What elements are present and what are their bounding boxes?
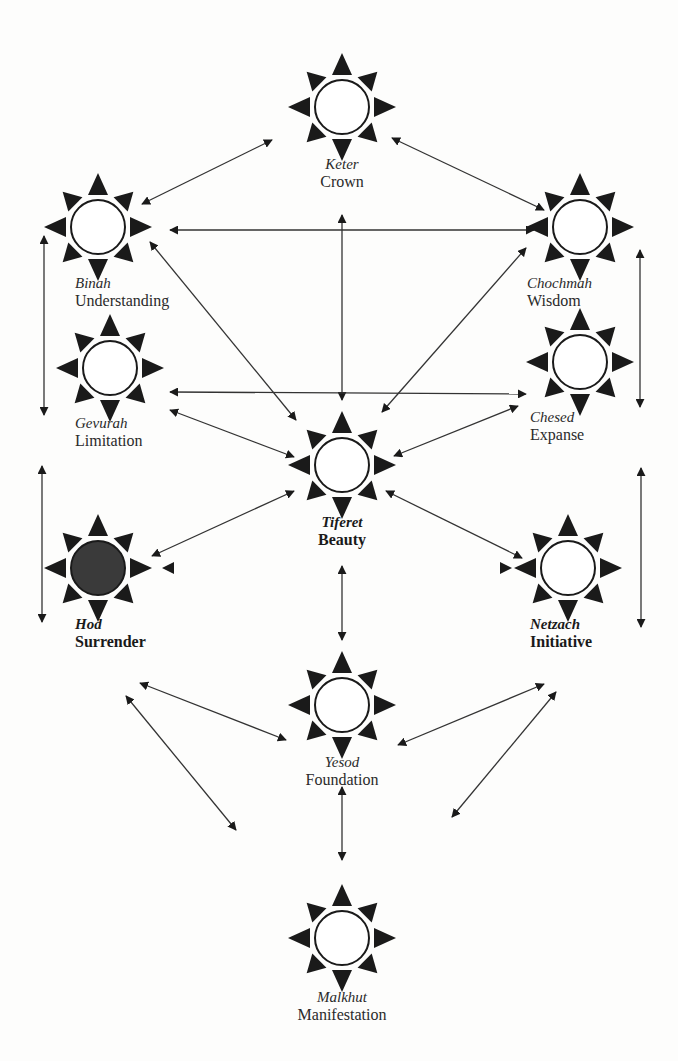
netzach-inner-pointer-icon [500,562,512,574]
sun-ray-icon [526,217,548,237]
hod-inner-pointer-icon [162,562,174,574]
label-netzach: NetzachInitiative [530,615,678,651]
english-name: Expanse [530,426,678,444]
sun-ray-icon [526,352,548,372]
arrow-binah-tiferet [150,242,296,420]
english-name: Surrender [75,633,275,651]
hebrew-name: Yesod [242,753,442,771]
open-circle-icon [553,200,607,254]
sun-ray-icon [288,97,310,117]
arrow-chesed-tiferet [394,406,518,456]
sun-node-chesed [526,308,634,416]
sun-ray-icon [142,358,164,378]
hebrew-name: Gevurah [75,414,275,432]
open-circle-icon [541,541,595,595]
sun-ray-icon [130,217,152,237]
sun-ray-icon [88,173,108,195]
sun-node-yesod [288,651,396,759]
label-tiferet: TiferetBeauty [242,513,442,549]
arrow-hod-yesod [140,683,286,740]
hebrew-name: Binah [75,274,275,292]
hebrew-name: Chochmah [527,274,678,292]
sun-ray-icon [514,558,536,578]
sun-ray-icon [612,352,634,372]
english-name: Initiative [530,633,678,651]
arrow-gevurah-chesed [170,392,526,394]
open-circle-icon [315,678,369,732]
arrow-chochmah-tiferet [382,248,526,412]
sun-ray-icon [100,314,120,336]
label-chochmah: ChochmahWisdom [527,274,678,310]
sun-ray-icon [600,558,622,578]
sun-ray-icon [374,695,396,715]
sun-ray-icon [288,455,310,475]
open-circle-icon [553,335,607,389]
sun-ray-icon [570,173,590,195]
english-name: Limitation [75,432,275,450]
sun-ray-icon [612,217,634,237]
english-name: Crown [242,173,442,191]
arrow-netzach-yesod [398,684,544,745]
sun-node-binah [44,173,152,281]
sun-ray-icon [56,358,78,378]
arrow-netzach-malkhut [452,692,556,817]
sun-ray-icon [288,928,310,948]
open-circle-icon [315,438,369,492]
hebrew-name: Netzach [530,615,678,633]
sun-node-gevurah [56,314,164,422]
hebrew-name: Malkhut [242,988,442,1006]
hebrew-name: Tiferet [242,513,442,531]
sun-ray-icon [130,558,152,578]
sun-node-tiferet [288,411,396,519]
sun-ray-icon [570,308,590,330]
label-yesod: YesodFoundation [242,753,442,789]
sun-ray-icon [332,651,352,673]
sun-ray-icon [374,928,396,948]
sun-node-chochmah [526,173,634,281]
english-name: Understanding [75,292,275,310]
open-circle-icon [83,341,137,395]
sun-ray-icon [44,217,66,237]
filled-circle-icon [71,541,125,595]
label-gevurah: GevurahLimitation [75,414,275,450]
sun-ray-icon [44,558,66,578]
label-chesed: ChesedExpanse [530,408,678,444]
label-keter: KeterCrown [242,155,442,191]
sun-ray-icon [88,514,108,536]
label-malkhut: MalkhutManifestation [242,988,442,1024]
open-circle-icon [315,911,369,965]
sun-ray-icon [374,455,396,475]
sun-ray-icon [558,514,578,536]
english-name: Manifestation [242,1006,442,1024]
sun-ray-icon [332,53,352,75]
sun-ray-icon [332,884,352,906]
sun-ray-icon [374,97,396,117]
sun-node-keter [288,53,396,161]
hebrew-name: Chesed [530,408,678,426]
label-binah: BinahUnderstanding [75,274,275,310]
english-name: Wisdom [527,292,678,310]
label-hod: HodSurrender [75,615,275,651]
sun-node-malkhut [288,884,396,992]
sun-node-hod [44,514,152,622]
sun-ray-icon [332,411,352,433]
sun-node-netzach [514,514,622,622]
sun-ray-icon [288,695,310,715]
arrow-hod-malkhut [126,696,236,830]
english-name: Foundation [242,771,442,789]
hebrew-name: Hod [75,615,275,633]
hebrew-name: Keter [242,155,442,173]
open-circle-icon [315,80,369,134]
english-name: Beauty [242,531,442,549]
open-circle-icon [71,200,125,254]
